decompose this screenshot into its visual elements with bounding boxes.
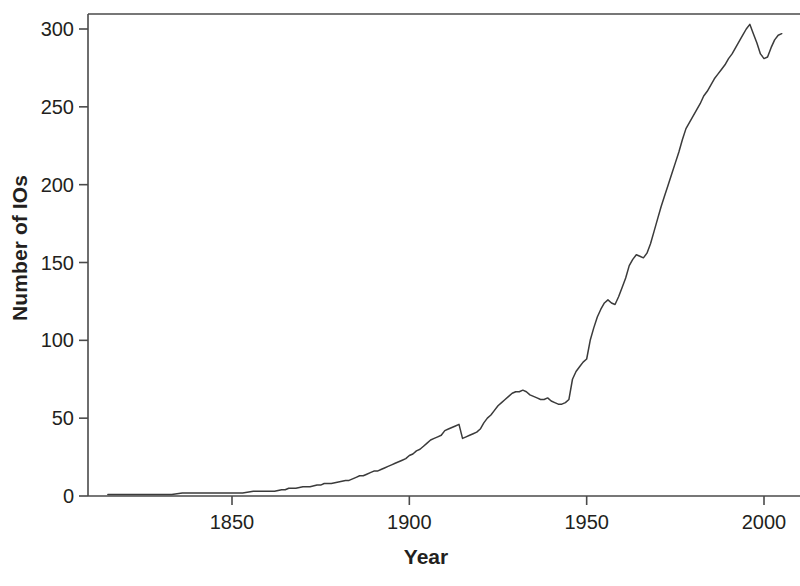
plot-svg — [0, 0, 800, 586]
plot-area — [0, 0, 800, 586]
chart-figure: Number of IOs 050100150200250300 1850190… — [0, 0, 800, 586]
data-line-number-of-ios — [108, 24, 782, 494]
